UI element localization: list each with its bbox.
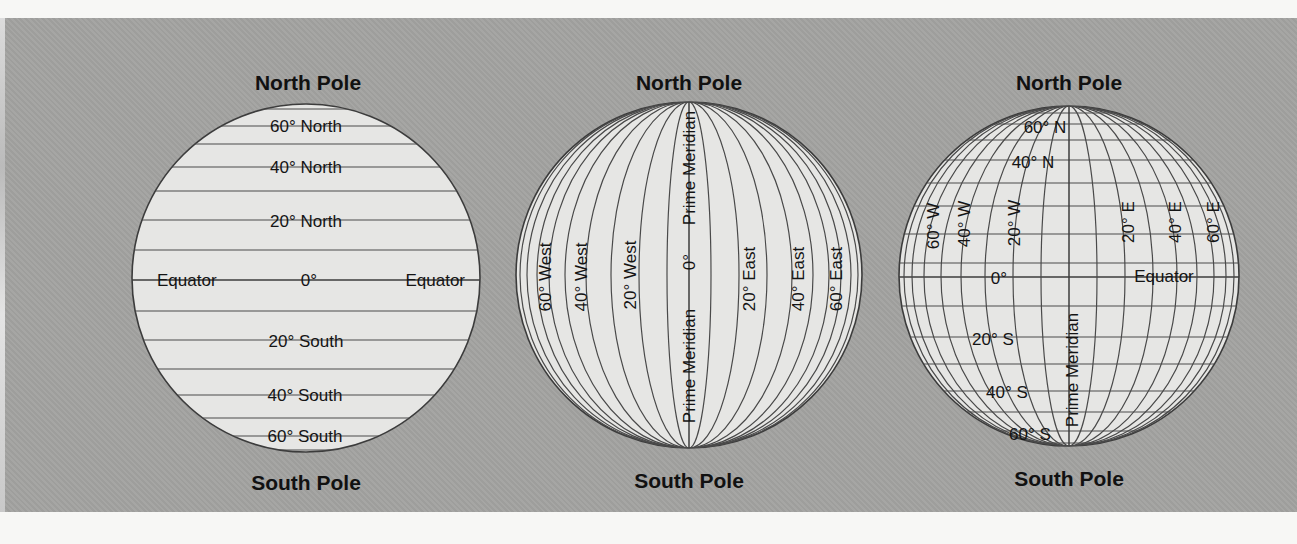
lon-60w-label: 60° West [536,242,555,311]
south-pole-label: South Pole [1014,467,1124,490]
lon-20w-label: 20° West [621,240,640,309]
equator-right-label: Equator [405,271,465,290]
equator-label: Equator [1134,267,1194,286]
zero-degree-label: 0° [301,271,317,290]
lat-20s-label: 20° S [972,330,1014,349]
north-pole-label: North Pole [255,71,361,94]
lon-40w-label: 40° W [955,201,974,247]
zero-degree-label: 0° [991,269,1007,288]
lon-20w-label: 20° W [1005,200,1024,246]
lat-20n-label: 20° North [270,212,342,231]
prime-meridian-top-label: Prime Meridian [680,111,699,225]
lat-40s-label: 40° South [268,386,343,405]
lon-20e-label: 20° E [1119,201,1138,243]
equator-left-label: Equator [157,271,217,290]
latitude-globe: North Pole South Pole 60° North 40° Nort… [120,71,500,494]
lat-20s-label: 20° South [269,332,344,351]
lat-60s-label: 60° South [268,427,343,446]
lat-40s-label: 40° S [986,383,1028,402]
lon-60w-label: 60° W [924,203,943,249]
lon-20e-label: 20° East [740,247,759,312]
lon-40e-label: 40° East [789,247,808,312]
lat-60n-label: 60° North [270,117,342,136]
lon-40w-label: 40° West [572,242,591,311]
longitude-globe: North Pole South Pole 60° West 40° West … [516,71,862,492]
north-pole-label: North Pole [636,71,742,94]
south-pole-label: South Pole [251,471,361,494]
lat-40n-label: 40° North [270,158,342,177]
lat-40n-label: 40° N [1012,153,1055,172]
lat-60s-label: 60° S [1009,425,1051,444]
grid-globe: North Pole South Pole 60° N 40° N 60° W … [890,71,1250,490]
lon-60e-label: 60° East [827,247,846,312]
north-pole-label: North Pole [1016,71,1122,94]
prime-meridian-label: Prime Meridian [1063,313,1082,427]
lat-60n-label: 60° N [1024,118,1067,137]
south-pole-label: South Pole [634,469,744,492]
lon-40e-label: 40° E [1166,201,1185,243]
prime-meridian-bottom-label: Prime Meridian [680,309,699,423]
zero-degree-label: 0° [680,254,699,270]
lon-60e-label: 60° E [1204,201,1223,243]
